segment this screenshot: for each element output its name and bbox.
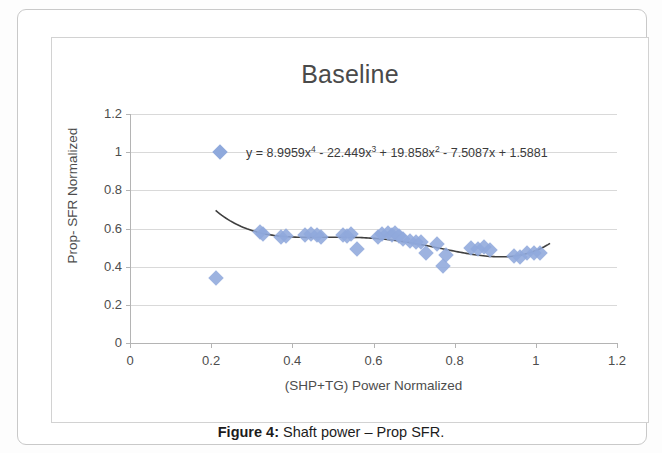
scanned-page: Baseline 00.20.40.60.811.200.20.40.60.81… <box>0 0 662 453</box>
figure-caption-text: Shaft power – Prop SFR. <box>279 424 444 440</box>
y-axis-title: Prop- SFR Normalized <box>65 101 80 291</box>
x-axis-title: (SHP+TG) Power Normalized <box>130 378 617 393</box>
figure-caption-label: Figure 4: <box>218 424 279 440</box>
page-border: Baseline 00.20.40.60.811.200.20.40.60.81… <box>17 9 647 445</box>
plot-area: 00.20.40.60.811.200.20.40.60.811.2y = 8.… <box>52 38 648 422</box>
chart-container: Baseline 00.20.40.60.811.200.20.40.60.81… <box>51 37 649 423</box>
trendline-equation-label: y = 8.9959x4 - 22.449x3 + 19.858x2 - 7.5… <box>246 144 548 160</box>
figure-caption: Figure 4: Shaft power – Prop SFR. <box>0 424 662 440</box>
